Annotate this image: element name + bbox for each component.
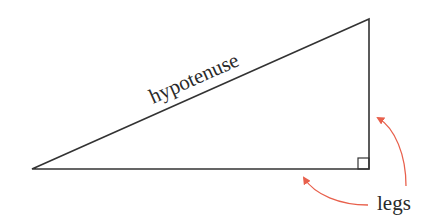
right-triangle-diagram: hypotenuse legs [0,0,445,221]
right-angle-marker [358,158,369,169]
arrow-to-vertical-leg [378,118,406,186]
legs-label: legs [377,191,411,215]
diagram-canvas: hypotenuse legs [0,0,445,221]
triangle-shape [32,19,369,169]
arrow-to-bottom-leg [304,178,368,205]
hypotenuse-label: hypotenuse [145,48,242,109]
